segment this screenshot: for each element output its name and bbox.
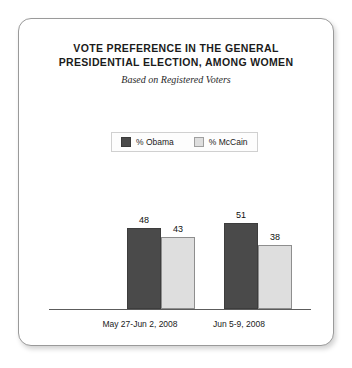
bar-value-label: 51 — [224, 210, 258, 220]
category-label: Jun 5-9, 2008 — [179, 319, 299, 329]
bar-wrap: 38 — [258, 245, 292, 309]
bar-group: 48 43 — [127, 228, 195, 309]
bar-obama — [224, 223, 258, 309]
bar-wrap: 43 — [161, 237, 195, 309]
bar-wrap: 51 — [224, 223, 258, 309]
bar-mccain — [258, 245, 292, 309]
bar-value-label: 43 — [161, 224, 195, 234]
chart-title-line-2: PRESIDENTIAL ELECTION, AMONG WOMEN — [19, 55, 333, 69]
legend-label-obama: % Obama — [136, 137, 174, 147]
bar-obama — [127, 228, 161, 309]
legend-entry-obama: % Obama — [121, 137, 174, 147]
legend-label-mccain: % McCain — [209, 137, 248, 147]
bar-value-label: 48 — [127, 215, 161, 225]
title-block: VOTE PREFERENCE IN THE GENERAL PRESIDENT… — [19, 41, 333, 85]
legend-swatch-icon-mccain — [194, 137, 204, 147]
bar-value-label: 38 — [258, 232, 292, 242]
legend-entry-mccain: % McCain — [194, 137, 248, 147]
plot-area: 48 43 51 38 — [49, 174, 305, 309]
legend-swatch-icon-obama — [121, 137, 131, 147]
chart-subtitle: Based on Registered Voters — [19, 74, 333, 85]
chart-card: VOTE PREFERENCE IN THE GENERAL PRESIDENT… — [18, 18, 334, 346]
bar-wrap: 48 — [127, 228, 161, 309]
chart-title-line-1: VOTE PREFERENCE IN THE GENERAL — [19, 41, 333, 55]
chart-legend: % Obama % McCain — [111, 132, 258, 152]
bar-mccain — [161, 237, 195, 309]
bar-group: 51 38 — [224, 223, 292, 309]
axis-baseline — [49, 309, 311, 310]
